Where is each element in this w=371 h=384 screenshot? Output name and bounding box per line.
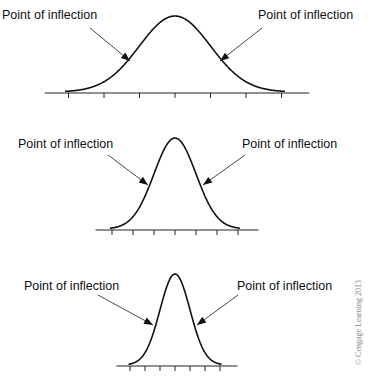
normal-curve <box>65 16 285 91</box>
arrowhead-icon <box>139 177 148 185</box>
arrowhead-icon <box>203 177 212 185</box>
curve3-left-label: Point of inflection <box>24 279 119 293</box>
copyright-notice: © Cengage Learning 2013 <box>354 273 363 373</box>
arrowhead-icon <box>121 53 130 61</box>
arrowhead-icon <box>143 318 153 325</box>
curve1-left-label: Point of inflection <box>2 8 97 22</box>
curve2-right-label: Point of inflection <box>242 137 337 151</box>
curves-canvas <box>0 0 371 384</box>
normal-curves-diagram: Point of inflection Point of inflection … <box>0 0 371 384</box>
arrowhead-icon <box>197 317 206 325</box>
arrowhead-icon <box>220 53 229 61</box>
normal-curve <box>110 138 240 228</box>
curve1-right-label: Point of inflection <box>258 8 353 22</box>
inflection-arrow <box>98 295 153 325</box>
curve3-right-label: Point of inflection <box>237 279 332 293</box>
curve2-left-label: Point of inflection <box>18 137 113 151</box>
